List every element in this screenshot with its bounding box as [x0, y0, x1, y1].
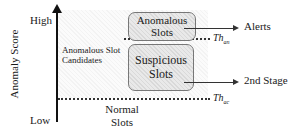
normal-line2: Slots	[100, 116, 144, 129]
candidates-line2: Candidates	[62, 55, 120, 65]
second-stage-arrow-line	[184, 82, 234, 83]
alerts-arrow-line	[184, 28, 234, 29]
arrow-up-icon	[52, 4, 62, 13]
th-lower-sub: ac	[224, 99, 230, 105]
anomalous-slot-candidates-label: Anomalous Slot Candidates	[62, 45, 120, 65]
suspicious-slots-box: Suspicious Slots	[128, 44, 194, 91]
suspicious-line2: Slots	[129, 67, 193, 81]
th-upper-base: Th	[213, 32, 224, 43]
anomalous-slots-box: Anomalous Slots	[128, 12, 196, 41]
arrow-right-icon	[233, 79, 239, 85]
th-lower-base: Th	[213, 92, 224, 103]
y-axis-label: Anomaly Score	[8, 24, 20, 104]
y-axis-line	[56, 10, 58, 122]
th-upper-sub: an	[224, 39, 230, 45]
suspicious-line1: Suspicious	[129, 53, 193, 67]
low-label: Low	[30, 114, 50, 126]
normal-line1: Normal	[100, 103, 144, 116]
alerts-label: Alerts	[244, 20, 271, 32]
arrow-right-icon	[233, 25, 239, 31]
upper-threshold-label: Than	[213, 32, 230, 45]
lower-threshold-line	[58, 98, 210, 100]
candidates-line1: Anomalous Slot	[62, 45, 120, 55]
anomalous-line1: Anomalous	[129, 14, 195, 26]
high-label: High	[30, 14, 52, 26]
lower-threshold-label: Thac	[213, 92, 229, 105]
normal-slots-label: Normal Slots	[100, 103, 144, 129]
second-stage-label: 2nd Stage	[244, 74, 288, 86]
